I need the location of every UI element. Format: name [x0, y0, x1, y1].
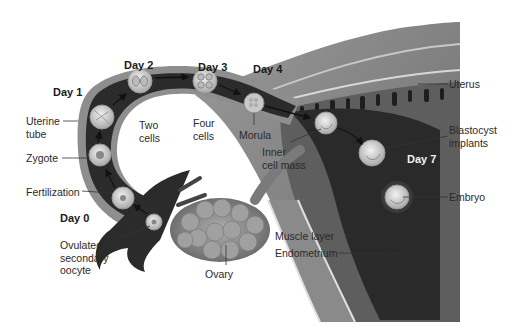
inner-cell-mass-label: Inner cell mass — [262, 146, 306, 171]
ovulated-oocyte-label: Ovulated secondary oocyte — [60, 239, 108, 277]
uterus — [195, 22, 460, 322]
two-cells-label: Two cells — [139, 119, 160, 144]
embryo-label: Embryo — [449, 191, 485, 204]
zygote-label: Zygote — [26, 152, 58, 165]
endometrium-label: Endometrium — [275, 247, 337, 260]
ovary-illustration — [170, 198, 270, 262]
blastocyst-implants-label: Blastocyst implants — [449, 124, 497, 149]
four-cells-label: Four cells — [193, 117, 215, 142]
fertilization-label: Fertilization — [26, 186, 80, 199]
day-3-label: Day 3 — [198, 61, 227, 73]
uterine-tube-label: Uterine tube — [26, 115, 60, 140]
day-2-label: Day 2 — [124, 59, 153, 71]
day-4-label: Day 4 — [253, 63, 282, 75]
day-7-label: Day 7 — [407, 153, 436, 165]
anatomy-illustration — [0, 0, 515, 328]
muscle-layer-label: Muscle layer — [275, 230, 334, 243]
day-0-label: Day 0 — [60, 212, 89, 224]
morula-label: Morula — [239, 129, 271, 142]
uterus-label: Uterus — [449, 78, 480, 91]
day-1-label: Day 1 — [53, 86, 82, 98]
ovary-label: Ovary — [205, 268, 233, 281]
